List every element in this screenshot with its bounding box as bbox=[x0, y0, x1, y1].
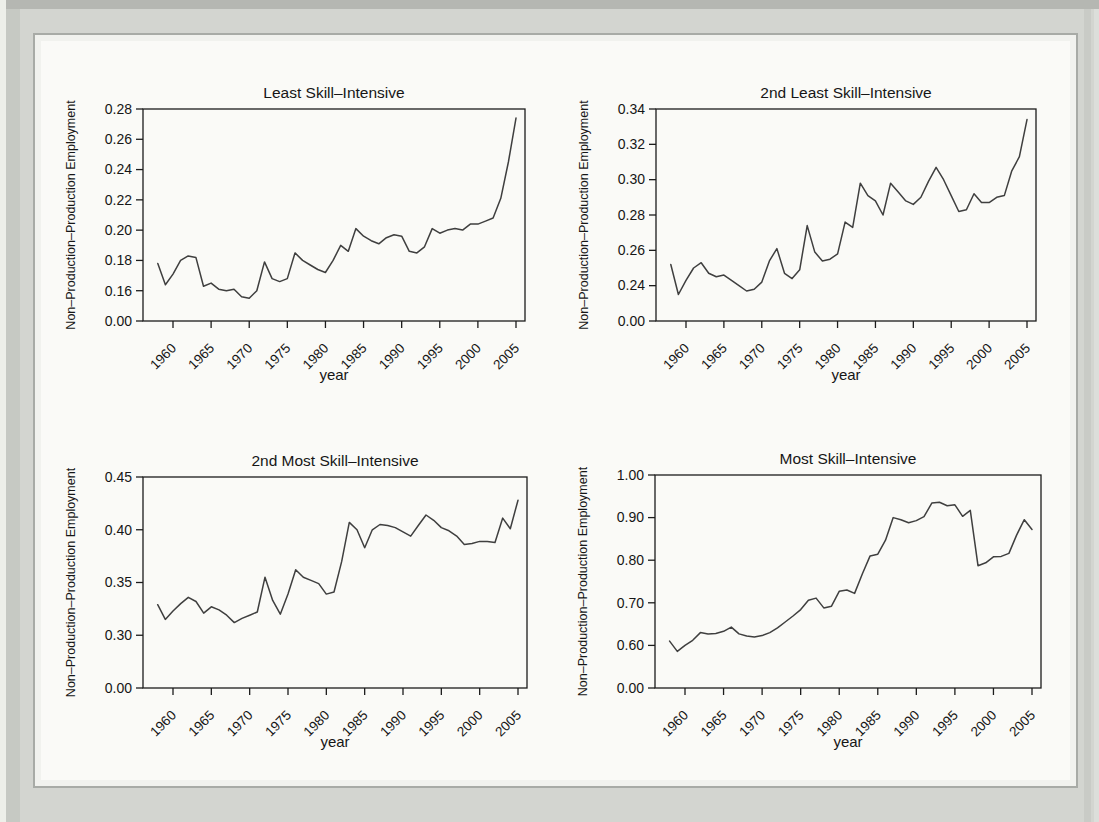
page-left-shadow-band bbox=[6, 9, 20, 822]
x-tick-label: 1965 bbox=[698, 341, 730, 373]
chart-most-skill-intensive: 1.000.900.800.700.600.001960196519701975… bbox=[552, 406, 1076, 784]
y-tick-label-zero: 0.00 bbox=[617, 680, 644, 696]
x-tick-label: 1965 bbox=[185, 341, 217, 373]
y-tick-label: 0.35 bbox=[105, 574, 132, 590]
x-tick-label: 1960 bbox=[659, 708, 691, 740]
page-right-edge-highlight bbox=[1094, 9, 1099, 822]
x-tick-label: 1975 bbox=[262, 708, 294, 740]
x-tick-label: 1970 bbox=[224, 708, 256, 740]
x-tick-label: 1995 bbox=[929, 708, 961, 740]
page-top-edge bbox=[0, 0, 1099, 9]
y-tick-label: 0.45 bbox=[105, 469, 132, 485]
y-tick-label: 0.30 bbox=[618, 171, 645, 187]
plot-frame bbox=[143, 477, 527, 688]
y-tick-label: 0.26 bbox=[618, 242, 645, 258]
y-tick-label: 1.00 bbox=[617, 467, 644, 483]
x-tick-label: 1970 bbox=[736, 341, 768, 373]
chart-title: Most Skill–Intensive bbox=[780, 450, 917, 467]
x-axis-label: year bbox=[833, 733, 862, 750]
y-tick-label: 0.70 bbox=[617, 595, 644, 611]
y-tick-label: 0.34 bbox=[618, 101, 645, 117]
x-axis-label: year bbox=[319, 366, 348, 383]
y-tick-label: 0.22 bbox=[105, 192, 132, 208]
x-tick-label: 1975 bbox=[262, 341, 294, 373]
y-tick-label: 0.90 bbox=[617, 509, 644, 525]
series-line bbox=[670, 502, 1032, 651]
series-line bbox=[158, 118, 516, 298]
y-tick-label: 0.18 bbox=[105, 252, 132, 268]
x-tick-label: 1970 bbox=[736, 708, 768, 740]
x-tick-label: 1990 bbox=[377, 708, 409, 740]
y-tick-label: 0.80 bbox=[617, 552, 644, 568]
series-line bbox=[158, 500, 518, 622]
chart-least-skill-intensive: 0.280.260.240.220.200.180.160.0019601965… bbox=[40, 36, 562, 412]
x-tick-label: 2000 bbox=[968, 708, 1000, 740]
chart-title: 2nd Least Skill–Intensive bbox=[760, 84, 931, 101]
y-axis-label: Non–Production–Production Employment bbox=[577, 100, 591, 330]
y-tick-label: 0.32 bbox=[618, 136, 645, 152]
x-tick-label: 2000 bbox=[963, 341, 995, 373]
x-tick-label: 2000 bbox=[454, 708, 486, 740]
y-tick-label: 0.30 bbox=[105, 627, 132, 643]
x-tick-label: 1995 bbox=[925, 341, 957, 373]
y-tick-label: 0.20 bbox=[105, 222, 132, 238]
x-tick-label: 2000 bbox=[452, 341, 484, 373]
chart-2nd-least-skill-intensive: 0.340.320.300.280.260.240.00196019651970… bbox=[552, 36, 1076, 412]
x-axis-label: year bbox=[831, 366, 860, 383]
x-tick-label: 2005 bbox=[492, 708, 524, 740]
y-tick-label: 0.28 bbox=[618, 207, 645, 223]
plot-frame bbox=[655, 475, 1041, 688]
x-tick-label: 1960 bbox=[660, 341, 692, 373]
y-tick-label: 0.40 bbox=[105, 522, 132, 538]
chart-title: 2nd Most Skill–Intensive bbox=[251, 452, 418, 469]
chart-2nd-most-skill-intensive: 0.450.400.350.300.0019601965197019751980… bbox=[40, 406, 562, 784]
x-tick-label: 1960 bbox=[147, 341, 179, 373]
y-axis-label: Non–Production–Production Employment bbox=[64, 467, 78, 697]
y-tick-label: 0.26 bbox=[105, 131, 132, 147]
plot-frame bbox=[143, 109, 525, 321]
y-tick-label: 0.24 bbox=[618, 277, 645, 293]
y-tick-label-zero: 0.00 bbox=[618, 313, 645, 329]
x-tick-label: 1975 bbox=[774, 341, 806, 373]
y-tick-label: 0.24 bbox=[105, 161, 132, 177]
x-tick-label: 1965 bbox=[698, 708, 730, 740]
x-tick-label: 1990 bbox=[891, 708, 923, 740]
x-tick-label: 1960 bbox=[147, 708, 179, 740]
x-tick-label: 1995 bbox=[414, 341, 446, 373]
plot-frame bbox=[656, 109, 1036, 321]
x-tick-label: 2005 bbox=[1006, 708, 1038, 740]
chart-title: Least Skill–Intensive bbox=[263, 84, 404, 101]
y-tick-label-zero: 0.00 bbox=[105, 313, 132, 329]
x-tick-label: 1990 bbox=[888, 341, 920, 373]
y-axis-label: Non–Production–Production Employment bbox=[64, 100, 78, 330]
y-tick-label: 0.60 bbox=[617, 637, 644, 653]
x-tick-label: 2005 bbox=[1001, 341, 1033, 373]
series-line bbox=[671, 120, 1027, 295]
y-tick-label: 0.28 bbox=[105, 101, 132, 117]
x-tick-label: 1965 bbox=[186, 708, 218, 740]
y-tick-label: 0.16 bbox=[105, 283, 132, 299]
x-tick-label: 2005 bbox=[490, 341, 522, 373]
x-axis-label: year bbox=[320, 733, 349, 750]
y-axis-label: Non–Production–Production Employment bbox=[576, 466, 590, 696]
x-tick-label: 1995 bbox=[416, 708, 448, 740]
scanned-figure-page: 0.280.260.240.220.200.180.160.0019601965… bbox=[0, 0, 1099, 822]
x-tick-label: 1970 bbox=[223, 341, 255, 373]
y-tick-label-zero: 0.00 bbox=[105, 680, 132, 696]
x-tick-label: 1990 bbox=[376, 341, 408, 373]
page-right-edge-stripe bbox=[1084, 9, 1091, 822]
x-tick-label: 1975 bbox=[775, 708, 807, 740]
